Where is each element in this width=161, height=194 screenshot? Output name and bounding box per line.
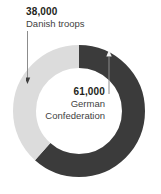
danish-troops-value: 38,000 [26,6,146,18]
danish-troops-label: Danish troops [26,18,146,30]
annotation-danish-troops: 38,000 Danish troops [26,6,146,30]
german-confederation-label-line1: German [20,98,105,110]
annotation-german-confederation: 61,000 German Confederation [20,86,105,122]
german-confederation-label-line2: Confederation [20,110,105,122]
leader-line-german-confederation [104,50,114,94]
donut-chart-figure: 38,000 Danish troops 61,000 German Confe… [0,0,161,194]
leader-line-danish-troops [26,31,35,84]
german-confederation-value: 61,000 [20,86,105,98]
